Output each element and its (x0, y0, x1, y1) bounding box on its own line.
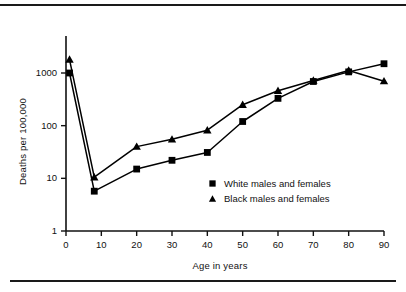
y-tick-label: 100 (17, 120, 57, 131)
x-tick-label: 0 (51, 239, 81, 250)
data-point-square (381, 60, 388, 67)
y-axis-title: Deaths per 100,000 (17, 82, 28, 202)
x-tick-label: 50 (228, 239, 258, 250)
data-point-square (204, 149, 211, 156)
x-tick-label: 60 (263, 239, 293, 250)
chart-plot-area (0, 8, 406, 278)
bottom-divider-rule (10, 280, 396, 282)
x-tick-label: 30 (157, 239, 187, 250)
top-divider-rule (0, 4, 406, 6)
chart-legend: White males and females Black males and … (208, 176, 358, 206)
triangle-marker-icon (208, 194, 217, 203)
x-tick-label: 80 (334, 239, 364, 250)
x-tick-label: 20 (122, 239, 152, 250)
y-tick-label: 1 (17, 225, 57, 236)
series-line (70, 64, 384, 191)
x-tick-label: 10 (86, 239, 116, 250)
legend-label-black: Black males and females (224, 193, 330, 204)
x-tick-label: 70 (298, 239, 328, 250)
x-tick-label: 90 (369, 239, 399, 250)
legend-label-white: White males and females (224, 178, 331, 189)
chart-figure: Deaths per 100,000 Age in years 11010010… (0, 8, 406, 278)
data-point-square (275, 95, 282, 102)
axis-layer (61, 36, 384, 236)
data-point-square (91, 188, 98, 195)
data-point-square (239, 118, 246, 125)
y-tick-label: 10 (17, 172, 57, 183)
legend-item-black: Black males and females (208, 191, 358, 206)
x-axis-title: Age in years (160, 260, 280, 271)
series-line (70, 60, 384, 178)
x-tick-label: 40 (192, 239, 222, 250)
series-layer (65, 55, 388, 194)
data-point-square (169, 157, 176, 164)
square-marker-icon (208, 179, 217, 188)
legend-item-white: White males and females (208, 176, 358, 191)
y-tick-label: 1000 (17, 67, 57, 78)
data-point-square (133, 166, 140, 173)
data-point-triangle (203, 126, 211, 133)
